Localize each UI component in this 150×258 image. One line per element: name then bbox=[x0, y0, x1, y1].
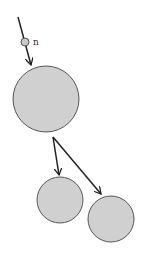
input-node bbox=[21, 38, 29, 46]
root-node bbox=[13, 66, 79, 132]
tree-diagram: n bbox=[0, 0, 150, 258]
input-node-label: n bbox=[33, 37, 39, 47]
child-node-left bbox=[37, 177, 83, 223]
child-node-right bbox=[88, 196, 134, 242]
